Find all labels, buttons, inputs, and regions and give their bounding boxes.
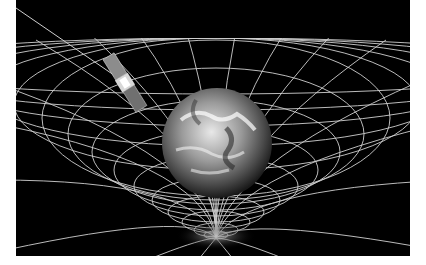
spacetime-illustration [16,0,410,256]
satellite [102,52,148,113]
scene-svg [16,0,410,256]
earth [162,88,272,198]
funnel-glow [176,222,256,250]
